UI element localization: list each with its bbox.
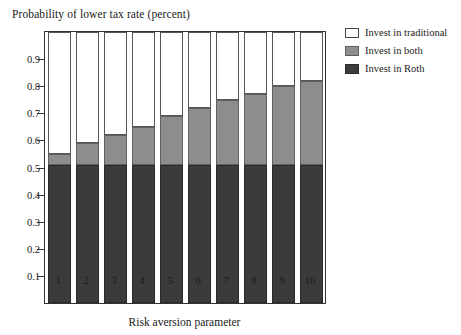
legend-item[interactable]: Invest in Roth [345, 63, 447, 74]
x-axis-tick-label: 6 [195, 275, 200, 286]
x-axis-tick-label: 10 [305, 275, 316, 286]
x-axis-tick-label: 2 [83, 275, 88, 286]
x-axis-tick-label: 9 [279, 275, 284, 286]
bar-segment-traditional[interactable] [132, 32, 155, 127]
y-axis-tick-label: 0.2 [27, 243, 40, 254]
bar-segment-traditional[interactable] [48, 32, 71, 154]
bar-segment-both[interactable] [188, 108, 211, 165]
bar-group[interactable] [76, 32, 99, 303]
y-axis-tick-label: 0.9 [27, 54, 40, 65]
bar-group[interactable] [216, 32, 239, 303]
bar-group[interactable] [272, 32, 295, 303]
legend-item-label: Invest in Roth [365, 63, 425, 74]
y-axis-tick-label: 0.7 [27, 108, 40, 119]
bar-segment-traditional[interactable] [216, 32, 239, 100]
bar-segment-both[interactable] [244, 94, 267, 164]
white-square-icon [345, 28, 359, 38]
bar-segment-both[interactable] [132, 127, 155, 165]
bar-group[interactable] [48, 32, 71, 303]
y-axis-tick-label: 0.5 [27, 162, 40, 173]
legend-item[interactable]: Invest in traditional [345, 27, 447, 38]
bar-segment-both[interactable] [272, 86, 295, 165]
bar-group[interactable] [104, 32, 127, 303]
bar-segment-traditional[interactable] [188, 32, 211, 108]
bar-group[interactable] [244, 32, 267, 303]
bar-segment-traditional[interactable] [300, 32, 323, 81]
bar-segment-both[interactable] [300, 81, 323, 165]
bar-segment-both[interactable] [48, 154, 71, 165]
bar-chart-figure: Probability of lower tax rate (percent) … [0, 0, 461, 335]
x-axis-tick-label: 4 [139, 275, 144, 286]
bar-segment-traditional[interactable] [76, 32, 99, 143]
bar-group[interactable] [300, 32, 323, 303]
bars-layer [45, 32, 325, 303]
y-axis-tick-label: 0.3 [27, 216, 40, 227]
bar-group[interactable] [132, 32, 155, 303]
bar-segment-traditional[interactable] [272, 32, 295, 86]
y-axis-tick-label: 0.4 [27, 189, 40, 200]
y-axis-tick-label: 0.8 [27, 81, 40, 92]
dark-square-icon [345, 64, 359, 74]
legend-item-label: Invest in traditional [365, 27, 447, 38]
x-axis-tick-label: 3 [111, 275, 116, 286]
bar-segment-both[interactable] [104, 135, 127, 165]
y-axis-tick-label: 0.1 [27, 270, 40, 281]
bar-segment-both[interactable] [76, 143, 99, 165]
x-axis-tick-label: 7 [223, 275, 228, 286]
y-axis-tick-label: 0.6 [27, 135, 40, 146]
bar-segment-both[interactable] [216, 100, 239, 165]
legend-item[interactable]: Invest in both [345, 45, 447, 56]
x-axis-title: Risk aversion parameter [44, 316, 325, 328]
gray-square-icon [345, 46, 359, 56]
bar-segment-traditional[interactable] [104, 32, 127, 135]
bar-segment-both[interactable] [160, 116, 183, 165]
x-axis-tick-label: 8 [251, 275, 256, 286]
bar-group[interactable] [160, 32, 183, 303]
chart-legend: Invest in traditionalInvest in bothInves… [345, 27, 447, 81]
chart-title: Probability of lower tax rate (percent) [12, 8, 190, 20]
bar-segment-traditional[interactable] [244, 32, 267, 94]
legend-item-label: Invest in both [365, 45, 423, 56]
x-axis-tick-label: 1 [55, 275, 60, 286]
bar-segment-traditional[interactable] [160, 32, 183, 116]
bar-group[interactable] [188, 32, 211, 303]
x-axis-tick-label: 5 [167, 275, 172, 286]
plot-area: 0.10.20.30.40.50.60.70.80.9 [44, 31, 326, 304]
